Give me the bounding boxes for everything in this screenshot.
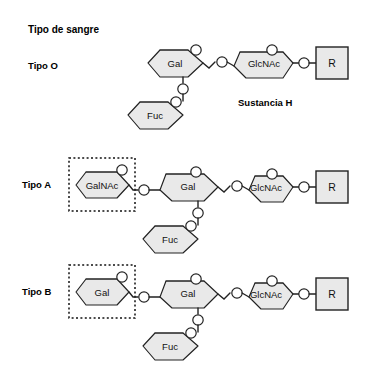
page-title: Tipo de sangre (28, 24, 99, 35)
ring-oxygen-gal (191, 167, 201, 177)
bond-o1-to-glcnac (227, 62, 234, 66)
sugar-label-glcnac: GlcNAc (248, 58, 280, 69)
r-box-label: R (328, 57, 336, 69)
sugar-label-gal-core: Gal (181, 288, 196, 299)
bond-galnac-to-o (129, 185, 138, 190)
ring-oxygen-fuc (186, 328, 196, 338)
ring-oxygen-gal (191, 45, 201, 55)
row-label-tipo-a: Tipo A (22, 179, 51, 190)
sugar-gal-core-tipo-b: Gal (160, 274, 218, 308)
oxygen-node-gal-fuc (178, 84, 188, 94)
sugar-label-galnac: GalNAc (86, 180, 119, 191)
oxygen-node-gal-gal (139, 292, 149, 302)
bond-galterm-to-o (129, 292, 138, 297)
sugar-gal-terminal-tipo-b: Gal (76, 272, 129, 305)
oxygen-node-glcnac-r (299, 289, 309, 299)
sugar-label-gal: Gal (181, 181, 196, 192)
r-box-label: R (328, 288, 336, 300)
row-label-tipo-o: Tipo O (28, 60, 58, 71)
sugar-label-gal-terminal: Gal (95, 287, 110, 298)
ring-oxygen-galnac (117, 165, 127, 175)
oxygen-node-gal-fuc (193, 208, 203, 218)
oxygen-node-glcnac-r (299, 58, 309, 68)
ring-oxygen-glcnac (267, 276, 277, 286)
oxygen-node-glcnac-r (299, 182, 309, 192)
ring-oxygen-gal-terminal (117, 272, 127, 282)
ring-oxygen-fuc (186, 221, 196, 231)
sugar-gal-tipo-o: Gal (148, 45, 203, 77)
oxygen-node-gal-glcnac (232, 181, 242, 191)
sugar-label-fuc: Fuc (147, 110, 163, 121)
sugar-label-glcnac: GlcNAc (250, 182, 282, 193)
oxygen-node-gal-glcnac (232, 288, 242, 298)
row-tipo-b: Tipo B Gal Gal (22, 265, 348, 360)
bond-gal-to-o2 (218, 186, 230, 192)
oxygen-node-gal-fuc (193, 315, 203, 325)
bond-o2-to-glcnac (242, 186, 249, 190)
bond-o2-to-glcnac (242, 293, 249, 297)
oxygen-node-galnac-gal (139, 185, 149, 195)
annotation-sustancia-h: Sustancia H (238, 97, 293, 108)
bond-gal-to-o2 (218, 293, 230, 299)
sugar-fuc-tipo-b: Fuc (143, 328, 198, 360)
oxygen-node-gal-glcnac (217, 57, 227, 67)
row-tipo-o: Tipo O Gal Fuc GlcNAc (28, 45, 348, 129)
terminal-group-r-tipo-b: R (316, 278, 348, 310)
sugar-fuc-tipo-o: Fuc (128, 97, 183, 129)
sugar-label-gal: Gal (168, 58, 183, 69)
sugar-label-glcnac: GlcNAc (250, 289, 282, 300)
sugar-glcnac-tipo-a: GlcNAc (249, 169, 293, 202)
ring-oxygen-glcnac (267, 45, 277, 55)
ring-oxygen-fuc (171, 97, 181, 107)
sugar-glcnac-tipo-b: GlcNAc (249, 276, 293, 309)
ring-oxygen-glcnac (267, 169, 277, 179)
sugar-galnac-tipo-a: GalNAc (76, 165, 129, 198)
row-tipo-a: Tipo A GalNAc Gal (22, 158, 348, 253)
blood-type-glycan-diagram: Tipo de sangre Tipo O Gal Fuc (0, 0, 365, 369)
sugar-label-fuc: Fuc (162, 341, 178, 352)
row-label-tipo-b: Tipo B (22, 286, 52, 297)
sugar-gal-tipo-a: Gal (160, 167, 218, 201)
terminal-group-r-tipo-a: R (316, 171, 348, 203)
sugar-glcnac-tipo-o: GlcNAc (234, 45, 293, 78)
bond-gal-to-o1 (203, 62, 215, 68)
r-box-label: R (328, 181, 336, 193)
terminal-group-r-tipo-o: R (316, 47, 348, 79)
sugar-label-fuc: Fuc (162, 234, 178, 245)
ring-oxygen-gal-core (191, 274, 201, 284)
sugar-fuc-tipo-a: Fuc (143, 221, 198, 253)
